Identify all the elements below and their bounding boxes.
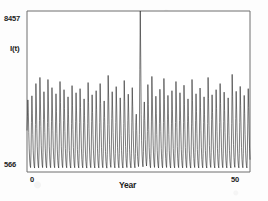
epidemic-time-series-figure: 8457 566 I(t) 0 50 Year — [0, 0, 268, 201]
y-axis-title: I(t) — [10, 44, 19, 53]
x-axis-max-label: 50 — [231, 175, 239, 184]
x-axis-min-label: 0 — [30, 175, 34, 184]
chart-plot-area — [0, 0, 268, 201]
y-axis-max-label: 8457 — [4, 14, 20, 23]
x-axis-title: Year — [119, 180, 136, 190]
y-axis-min-label: 566 — [4, 160, 16, 169]
